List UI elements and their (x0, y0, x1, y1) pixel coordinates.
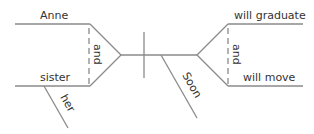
word-sister: sister (40, 71, 71, 84)
subject-compound: Anne sister and her (15, 9, 121, 128)
predicate-compound: Soon will graduate will move and (161, 9, 306, 118)
sentence-diagram: Anne sister and her Soon will graduate w… (0, 0, 314, 134)
predicate-fork-bottom (197, 55, 228, 86)
word-soon: Soon (179, 70, 204, 100)
word-will-graduate: will graduate (234, 9, 306, 22)
word-her: her (57, 92, 78, 115)
predicate-fork-top (197, 24, 228, 55)
predicate-conjunction-and: and (230, 44, 243, 65)
word-will-move: will move (243, 71, 296, 84)
word-anne: Anne (40, 9, 68, 22)
subject-conjunction-and: and (91, 44, 104, 65)
